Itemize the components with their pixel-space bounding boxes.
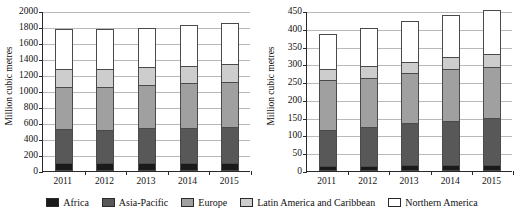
bar-segment[interactable] <box>484 11 500 55</box>
x-axis-tick-mark <box>431 171 432 175</box>
bar-segment[interactable] <box>139 29 155 68</box>
bar-segment[interactable] <box>97 131 113 165</box>
legend-item[interactable]: Europe <box>181 197 227 208</box>
y-axis-tick-label: 450 <box>288 7 302 17</box>
bar-segment[interactable] <box>181 164 197 170</box>
legend-item[interactable]: Latin America and Caribbean <box>240 197 375 208</box>
bar-segment[interactable] <box>443 166 459 170</box>
bar-segment[interactable] <box>56 30 72 70</box>
plot-area-right <box>306 12 512 172</box>
y-axis-ticks-left: 0200400600800100012001400160018002000 <box>8 0 38 172</box>
y-axis-tick-mark <box>303 172 307 173</box>
y-axis-tick-label: 0 <box>33 167 38 177</box>
bar-segment[interactable] <box>443 16 459 58</box>
bar-segment[interactable] <box>97 88 113 131</box>
bar-segment[interactable] <box>56 88 72 130</box>
y-axis-tick-label: 400 <box>24 135 38 145</box>
bar-segment[interactable] <box>181 26 197 66</box>
bar-segment[interactable] <box>361 29 377 67</box>
bar-segment[interactable] <box>320 36 336 70</box>
bar-segment[interactable] <box>56 130 72 164</box>
bar-segment[interactable] <box>443 122 459 167</box>
legend-label: Northern America <box>405 197 477 208</box>
y-axis-tick-label: 50 <box>293 149 303 159</box>
bar-segment[interactable] <box>222 164 238 170</box>
bar-segment[interactable] <box>181 67 197 85</box>
bar-segment[interactable] <box>402 22 418 63</box>
bar-segment[interactable] <box>56 164 72 170</box>
x-axis-tick-label: 2011 <box>306 176 347 186</box>
legend-swatch-icon <box>240 198 253 207</box>
x-axis-tick-label: 2012 <box>347 176 388 186</box>
legend-item[interactable]: Africa <box>46 197 89 208</box>
stacked-bar[interactable] <box>442 15 460 171</box>
bar-segment[interactable] <box>484 119 500 166</box>
y-axis-tick-label: 1000 <box>19 87 38 97</box>
y-axis-tick-label: 1600 <box>19 39 38 49</box>
bar-segment[interactable] <box>361 67 377 79</box>
bar-segment[interactable] <box>222 24 238 65</box>
bar-segment[interactable] <box>402 124 418 166</box>
y-axis-tick-label: 1400 <box>19 55 38 65</box>
bar-segment[interactable] <box>97 30 113 70</box>
chart-panel-right: Million cubic metres 0501001502002503003… <box>262 0 524 188</box>
gridline <box>307 12 512 13</box>
bar-segment[interactable] <box>484 55 500 67</box>
y-axis-tick-label: 300 <box>288 61 302 71</box>
x-axis-tick-label: 2014 <box>430 176 471 186</box>
legend-swatch-icon <box>46 198 59 207</box>
x-axis-tick-mark <box>126 171 127 175</box>
bar-segment[interactable] <box>320 70 336 81</box>
bar-segment[interactable] <box>97 164 113 170</box>
gridline <box>43 12 250 13</box>
legend-swatch-icon <box>181 198 194 207</box>
legend-item[interactable]: Asia-Pacific <box>102 197 168 208</box>
y-axis-tick-label: 2000 <box>19 7 38 17</box>
y-axis-tick-label: 800 <box>24 103 38 113</box>
bar-segment[interactable] <box>139 129 155 164</box>
bar-segment[interactable] <box>320 81 336 131</box>
bar-segment[interactable] <box>139 86 155 129</box>
stacked-bar[interactable] <box>138 28 156 171</box>
bar-segment[interactable] <box>484 166 500 170</box>
legend-item[interactable]: Northern America <box>388 197 477 208</box>
bar-segment[interactable] <box>402 63 418 74</box>
stacked-bar[interactable] <box>180 25 198 171</box>
stacked-bar[interactable] <box>221 23 239 171</box>
bar-segment[interactable] <box>97 70 113 88</box>
bar-segment[interactable] <box>320 131 336 166</box>
stacked-bar[interactable] <box>360 28 378 171</box>
stacked-bar[interactable] <box>96 29 114 171</box>
bar-segment[interactable] <box>361 167 377 171</box>
chart-legend: AfricaAsia-PacificEuropeLatin America an… <box>0 190 524 215</box>
bar-segment[interactable] <box>361 79 377 128</box>
bar-segment[interactable] <box>484 68 500 119</box>
x-axis-tick-label: 2015 <box>471 176 512 186</box>
legend-label: Latin America and Caribbean <box>257 197 375 208</box>
bar-segment[interactable] <box>402 74 418 124</box>
x-axis-tick-mark <box>348 171 349 175</box>
bar-segment[interactable] <box>139 68 155 87</box>
bar-segment[interactable] <box>181 129 197 164</box>
stacked-bar[interactable] <box>483 10 501 171</box>
bar-segment[interactable] <box>320 167 336 171</box>
bar-segment[interactable] <box>361 128 377 167</box>
bar-segment[interactable] <box>222 65 238 83</box>
x-axis-tick-mark <box>472 171 473 175</box>
x-axis-tick-mark <box>389 171 390 175</box>
x-axis-tick-label: 2014 <box>167 176 209 186</box>
x-axis-tick-mark <box>513 171 514 175</box>
plot-area-left <box>42 12 250 172</box>
stacked-bar[interactable] <box>55 29 73 171</box>
bar-segment[interactable] <box>181 84 197 129</box>
stacked-bar[interactable] <box>319 34 337 171</box>
bar-segment[interactable] <box>402 166 418 170</box>
bar-segment[interactable] <box>443 70 459 121</box>
bar-segment[interactable] <box>443 58 459 70</box>
bar-segment[interactable] <box>222 83 238 128</box>
stacked-bar[interactable] <box>401 21 419 171</box>
x-axis-tick-label: 2015 <box>208 176 250 186</box>
bar-segment[interactable] <box>222 128 238 164</box>
bar-segment[interactable] <box>139 164 155 170</box>
bar-segment[interactable] <box>56 70 72 88</box>
